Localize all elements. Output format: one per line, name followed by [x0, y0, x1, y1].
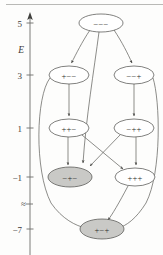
node-minus-plus-minus[interactable]: −+− [48, 167, 92, 187]
axis-break-symbol: ≈ [21, 199, 26, 209]
edge-top-to-plus-minus-minus [72, 30, 91, 63]
node-label-minus-minus-minus: −−− [94, 19, 109, 29]
edge-top-to-minus-plus-minus [83, 32, 99, 163]
edge-plus-plus-minus-to-plus-plus-plus [82, 135, 123, 169]
node-group: −−− +−− −−+ ++− −++ −+− [48, 14, 155, 239]
edge-top-to-minus-minus-plus [114, 30, 132, 63]
axis-tick-label-1: 1 [18, 124, 23, 134]
node-label-minus-plus-plus: −++ [127, 124, 142, 134]
node-plus-plus-plus[interactable]: +++ [115, 168, 155, 186]
axis-tick-label-5: 5 [18, 19, 23, 29]
axis-title: E [17, 45, 24, 55]
diagram-canvas: 5 3 1 −1 −7 ≈ E [0, 0, 163, 255]
energy-axis [26, 12, 34, 255]
node-plus-minus-plus[interactable]: +−+ [80, 219, 124, 239]
node-minus-minus-minus[interactable]: −−− [79, 14, 123, 32]
node-label-plus-minus-plus: +−+ [95, 225, 110, 235]
edge-plus-minus-minus-to-plus-minus-plus [39, 78, 86, 228]
node-label-minus-plus-minus: −+− [63, 173, 78, 183]
edge-minus-plus-plus-to-minus-plus-minus [90, 135, 120, 166]
node-minus-plus-plus[interactable]: −++ [114, 119, 154, 137]
energy-diagram-figure: 5 3 1 −1 −7 ≈ E [0, 0, 163, 255]
node-label-plus-minus-minus: +−− [62, 71, 77, 81]
axis-tick-label-minus7: −7 [12, 225, 22, 235]
node-minus-minus-plus[interactable]: −−+ [114, 66, 154, 84]
node-label-minus-minus-plus: −−+ [127, 71, 142, 81]
node-label-plus-plus-minus: ++− [62, 124, 77, 134]
node-plus-minus-minus[interactable]: +−− [49, 66, 89, 84]
node-label-plus-plus-plus: +++ [128, 173, 143, 183]
node-plus-plus-minus[interactable]: ++− [49, 119, 89, 137]
axis-tick-label-3: 3 [18, 71, 23, 81]
axis-tick-label-minus1: −1 [12, 173, 22, 183]
edge-plus-plus-plus-to-plus-minus-plus [108, 186, 128, 220]
edge-minus-minus-plus-to-plus-minus-plus [118, 78, 158, 228]
